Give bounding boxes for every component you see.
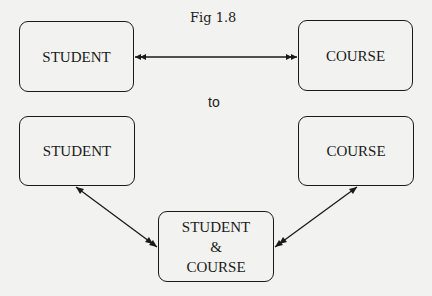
student-to-link-arrow bbox=[76, 187, 157, 247]
relationship-lines bbox=[0, 0, 432, 296]
many-to-many-arrow bbox=[135, 54, 297, 60]
course-to-link-arrow bbox=[275, 187, 357, 247]
